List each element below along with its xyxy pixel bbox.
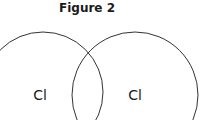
venn-diagram: Cl Cl	[0, 0, 207, 120]
right-atom-label: Cl	[128, 87, 142, 103]
right-atom-circle	[72, 32, 198, 120]
left-atom-circle	[0, 32, 103, 120]
left-atom-label: Cl	[33, 87, 47, 103]
